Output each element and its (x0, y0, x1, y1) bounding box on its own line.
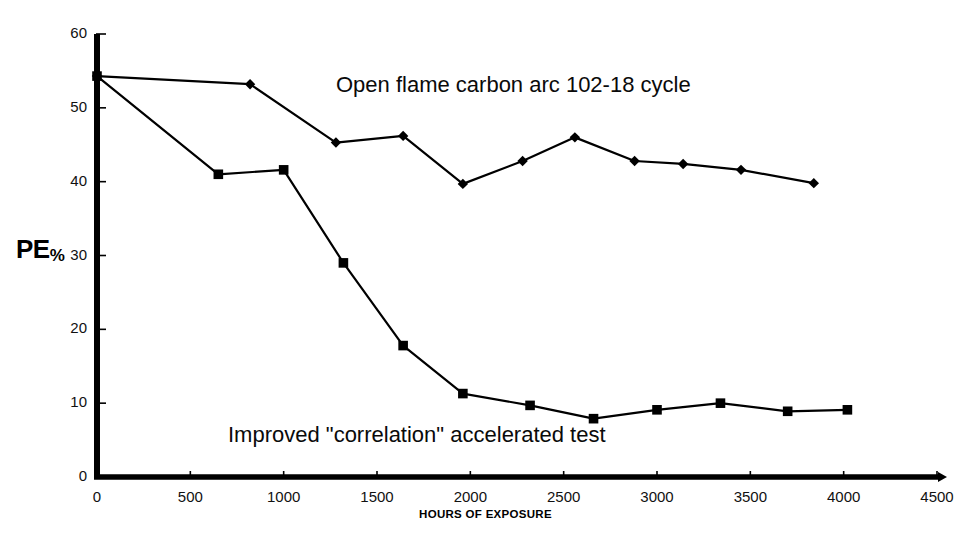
x-axis-tick-label: 4500 (907, 488, 967, 505)
chart-container: 0102030405060050010001500200025003000350… (0, 0, 971, 542)
x-axis-tick-label: 500 (160, 488, 220, 505)
data-point-square (339, 258, 349, 268)
series-annotation-upper: Open flame carbon arc 102-18 cycle (336, 72, 691, 98)
data-point-square (214, 169, 224, 179)
data-point-square (716, 398, 726, 408)
y-axis-tick-label: 0 (47, 467, 87, 484)
x-axis-tick-label: 2500 (534, 488, 594, 505)
data-point-square (525, 401, 535, 411)
x-axis-tick-label: 1500 (347, 488, 407, 505)
x-axis-tick-label: 1000 (254, 488, 314, 505)
data-point-diamond (629, 156, 639, 166)
data-series-layer (92, 71, 852, 424)
series-annotation-lower: Improved "correlation" accelerated test (228, 422, 606, 448)
y-axis-tick-label: 20 (47, 319, 87, 336)
x-axis-tick-label: 4000 (814, 488, 874, 505)
x-axis-tick-label: 2000 (440, 488, 500, 505)
x-axis-tick-label: 0 (67, 488, 127, 505)
series-line-1 (97, 76, 847, 419)
data-point-square (279, 165, 289, 175)
data-point-square (398, 341, 408, 351)
data-point-square (783, 406, 793, 416)
y-axis-title: PE% (16, 234, 64, 266)
data-point-diamond (517, 156, 527, 166)
y-axis-tick-label: 50 (47, 98, 87, 115)
y-axis-tick-label: 60 (47, 24, 87, 41)
x-axis-tick-label: 3000 (627, 488, 687, 505)
y-axis-tick-label: 10 (47, 393, 87, 410)
x-axis-tick-label: 3500 (720, 488, 780, 505)
y-axis-title-main: PE (16, 234, 50, 264)
data-point-diamond (678, 159, 688, 169)
y-axis-title-percent: % (50, 246, 65, 265)
data-point-square (92, 71, 102, 81)
y-axis-tick-label: 40 (47, 172, 87, 189)
axis-lines (94, 34, 947, 482)
data-point-diamond (736, 165, 746, 175)
x-axis-arrow-icon (938, 472, 947, 482)
data-point-square (652, 405, 662, 415)
data-point-diamond (570, 132, 580, 142)
data-point-diamond (809, 178, 819, 188)
data-point-square (843, 405, 853, 415)
data-point-square (458, 389, 468, 399)
x-axis-title: HOURS OF EXPOSURE (0, 508, 971, 520)
